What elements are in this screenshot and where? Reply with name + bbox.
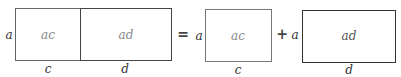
term-ad-label: ad	[342, 30, 357, 42]
combined-side-label: a	[5, 29, 12, 41]
combined-cell-ad-label: ad	[119, 29, 134, 41]
combined-bottom-label-c: c	[45, 63, 52, 75]
equals-sign: =	[177, 26, 189, 42]
term-ac-label: ac	[231, 30, 245, 42]
term-ad-bottom-label: d	[345, 64, 353, 76]
combined-bottom-label-d: d	[121, 63, 129, 75]
term-ac-side-label: a	[195, 30, 202, 42]
term-ad-side-label: a	[291, 29, 298, 41]
plus-sign: +	[276, 26, 288, 42]
combined-cell-ac-label: ac	[41, 29, 55, 41]
term-ac-bottom-label: c	[235, 64, 242, 76]
